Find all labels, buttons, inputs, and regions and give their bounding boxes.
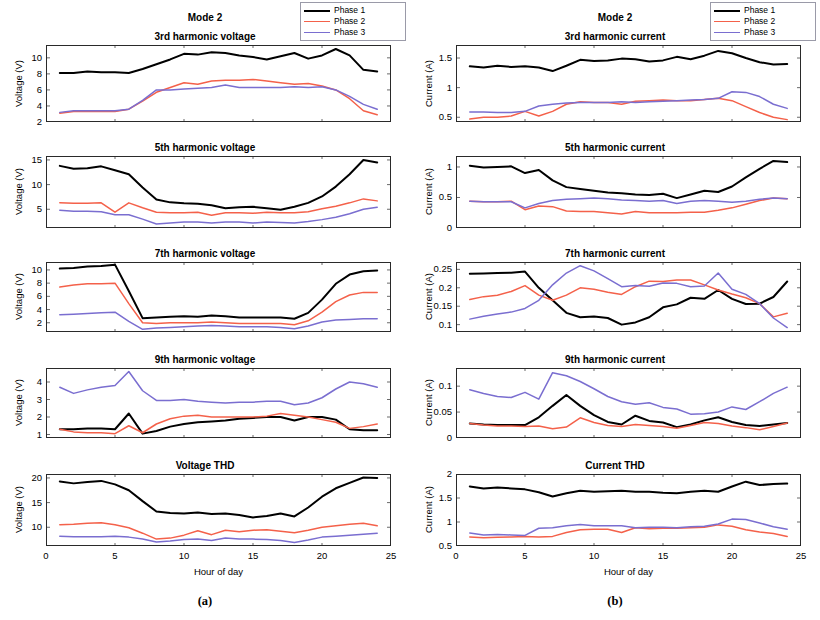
series-line-phase-3 (470, 519, 787, 535)
legend-label-1: Phase 1 (334, 5, 365, 16)
series-line-phase-1 (470, 482, 787, 497)
legend-item-1[interactable]: Phase 1 (714, 5, 812, 16)
legend-swatch-1-icon (304, 10, 330, 12)
legend-item-3[interactable]: Phase 3 (714, 27, 812, 38)
legend-item-2[interactable]: Phase 2 (304, 16, 402, 27)
legend-label-3: Phase 3 (334, 27, 365, 38)
legend-item-2[interactable]: Phase 2 (714, 16, 812, 27)
harmonics-figure: Mode 23rd harmonic voltageVoltage (V)246… (0, 0, 820, 620)
legend-swatch-1-icon (714, 10, 740, 12)
legend-swatch-2-icon (304, 21, 330, 22)
legend-item-1[interactable]: Phase 1 (304, 5, 402, 16)
legend-label-2: Phase 2 (334, 16, 365, 27)
legend-a: Phase 1Phase 2Phase 3 (300, 2, 406, 41)
legend-swatch-3-icon (714, 32, 740, 33)
plot-lines-b5 (0, 0, 820, 620)
legend-swatch-3-icon (304, 32, 330, 33)
subcaption-b: (b) (575, 594, 655, 609)
subcaption-a: (a) (165, 594, 245, 609)
legend-item-3[interactable]: Phase 3 (304, 27, 402, 38)
legend-swatch-2-icon (714, 21, 740, 22)
legend-label-2: Phase 2 (744, 16, 775, 27)
legend-label-1: Phase 1 (744, 5, 775, 16)
legend-b: Phase 1Phase 2Phase 3 (710, 2, 816, 41)
legend-label-3: Phase 3 (744, 27, 775, 38)
